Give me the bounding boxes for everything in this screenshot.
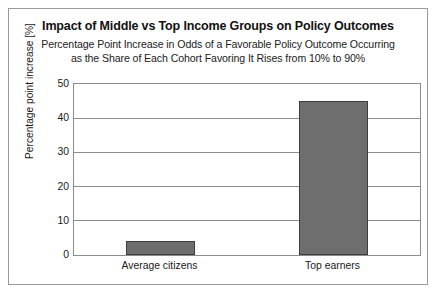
title-block: Impact of Middle vs Top Income Groups on… <box>9 19 427 65</box>
chart-subtitle-line-2: as the Share of Each Cohort Favoring It … <box>9 51 427 65</box>
y-axis-tick-labels: 01020304050 <box>25 83 69 256</box>
plot-area <box>73 83 421 256</box>
y-axis-tick-label: 50 <box>29 78 69 89</box>
chart-subtitle: Percentage Point Increase in Odds of a F… <box>9 37 427 65</box>
gridline <box>74 186 420 187</box>
y-axis-tick-label: 10 <box>29 214 69 225</box>
bar <box>299 101 368 255</box>
chart-subtitle-line-1: Percentage Point Increase in Odds of a F… <box>9 37 427 51</box>
x-axis-tick-label: Top earners <box>305 259 360 273</box>
x-axis-tick-labels: Average citizensTop earners <box>73 259 421 275</box>
chart-figure: Impact of Middle vs Top Income Groups on… <box>8 8 428 285</box>
gridline <box>74 220 420 221</box>
gridline <box>74 152 420 153</box>
chart-title: Impact of Middle vs Top Income Groups on… <box>9 19 427 34</box>
y-axis-tick-label: 40 <box>29 112 69 123</box>
x-axis-tick-label: Average citizens <box>121 259 197 273</box>
y-axis-tick-label: 0 <box>29 249 69 260</box>
y-axis-tick-label: 30 <box>29 146 69 157</box>
gridline <box>74 118 420 119</box>
bar <box>126 241 195 255</box>
y-axis-tick-label: 20 <box>29 180 69 191</box>
